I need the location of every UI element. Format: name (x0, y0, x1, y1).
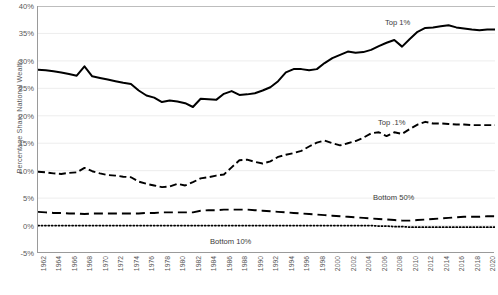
x-tick-label: 1964 (55, 256, 62, 271)
y-tick-label: 0% (23, 221, 34, 230)
x-tick-label: 2004 (365, 256, 372, 271)
series-label-top-1-percent: Top 1% (385, 18, 410, 27)
x-tick-label: 1986 (226, 256, 233, 271)
x-tick-label: 2016 (458, 256, 465, 271)
y-tick-label: 35% (19, 29, 34, 38)
series-label-bottom-10-percent: Bottom 10% (210, 237, 251, 246)
series-line-top-1 (38, 25, 495, 107)
x-tick-label: 1996 (303, 256, 310, 271)
x-tick-label: 2014 (443, 256, 450, 271)
y-tick-label: -5% (20, 249, 34, 258)
y-tick-label: 5% (23, 194, 34, 203)
x-tick-label: 1968 (86, 256, 93, 271)
x-tick-label: 1966 (71, 256, 78, 271)
y-tick-label: 30% (19, 56, 34, 65)
x-tick-label: 1962 (40, 256, 47, 271)
x-tick-label: 2006 (381, 256, 388, 271)
y-tick-label: 25% (19, 84, 34, 93)
x-tick-label: 2010 (412, 256, 419, 271)
y-axis-tick-labels: 40%35%30%25%20%15%10%5%0%-5% (0, 0, 37, 295)
x-tick-label: 2008 (396, 256, 403, 271)
x-tick-label: 1992 (272, 256, 279, 271)
x-tick-label: 1994 (288, 256, 295, 271)
y-tick-label: 10% (19, 166, 34, 175)
plot-area (37, 6, 494, 253)
x-axis-tick-labels: 1962196419661968197019721974197619781980… (37, 254, 494, 292)
x-tick-label: 1990 (257, 256, 264, 271)
x-tick-label: 1982 (195, 256, 202, 271)
x-tick-label: 1984 (210, 256, 217, 271)
x-tick-label: 1998 (319, 256, 326, 271)
y-tick-label: 20% (19, 111, 34, 120)
series-line-bottom-50 (38, 210, 495, 221)
series-label-bottom-50-percent: Bottom 50% (373, 193, 414, 202)
x-tick-label: 2000 (334, 256, 341, 271)
x-tick-label: 2012 (427, 256, 434, 271)
y-tick-label: 40% (19, 2, 34, 11)
x-tick-label: 1976 (148, 256, 155, 271)
x-tick-label: 1972 (117, 256, 124, 271)
x-tick-label: 2018 (474, 256, 481, 271)
x-tick-label: 2002 (350, 256, 357, 271)
x-tick-label: 1974 (133, 256, 140, 271)
wealth-share-line-chart: Percentage Share National Wealth 40%35%3… (0, 0, 498, 295)
x-tick-label: 1988 (241, 256, 248, 271)
plot-svg (38, 6, 495, 253)
y-tick-label: 15% (19, 139, 34, 148)
x-tick-label: 1980 (179, 256, 186, 271)
x-tick-label: 1978 (164, 256, 171, 271)
series-label-top-point-1-percent: Top .1% (378, 118, 405, 127)
series-line-top-1 (38, 122, 495, 187)
x-tick-label: 1970 (102, 256, 109, 271)
x-tick-label: 2020 (489, 256, 496, 271)
